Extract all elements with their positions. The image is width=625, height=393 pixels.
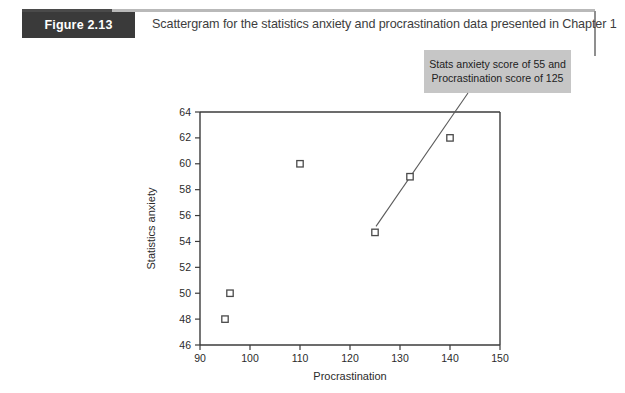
data-point-marker bbox=[447, 135, 453, 141]
x-axis-title: Procrastination bbox=[313, 370, 386, 382]
y-axis-tick-label: 52 bbox=[179, 261, 191, 273]
chart-svg: 4648505254565860626490100110120130140150… bbox=[0, 0, 625, 393]
data-point-marker bbox=[407, 174, 413, 180]
x-axis-tick-label: 150 bbox=[491, 352, 509, 364]
scatter-chart: 4648505254565860626490100110120130140150… bbox=[0, 0, 625, 393]
x-axis-tick-label: 100 bbox=[241, 352, 259, 364]
y-axis-tick-label: 60 bbox=[179, 157, 191, 169]
x-axis-tick-label: 110 bbox=[292, 352, 309, 364]
y-axis-tick-label: 48 bbox=[179, 313, 191, 325]
y-axis-tick-label: 62 bbox=[179, 131, 191, 143]
data-point-marker bbox=[297, 161, 303, 167]
y-axis-tick-label: 54 bbox=[179, 235, 191, 247]
y-axis-tick-label: 58 bbox=[179, 183, 191, 195]
x-axis-tick-label: 90 bbox=[194, 352, 206, 364]
x-axis-tick-label: 130 bbox=[391, 352, 409, 364]
data-point-marker bbox=[222, 316, 228, 322]
x-axis-tick-label: 140 bbox=[441, 352, 459, 364]
data-point-marker bbox=[372, 229, 378, 235]
y-axis-title: Statistics anxiety bbox=[145, 187, 157, 269]
y-axis-tick-label: 50 bbox=[179, 287, 191, 299]
x-axis-tick-label: 120 bbox=[341, 352, 359, 364]
data-point-marker bbox=[227, 290, 233, 296]
y-axis-tick-label: 56 bbox=[179, 209, 191, 221]
y-axis-tick-label: 46 bbox=[179, 339, 191, 351]
y-axis-tick-label: 64 bbox=[179, 106, 191, 118]
figure-page: Figure 2.13 Scattergram for the statisti… bbox=[0, 0, 625, 393]
annotation-leader-line bbox=[376, 93, 468, 226]
